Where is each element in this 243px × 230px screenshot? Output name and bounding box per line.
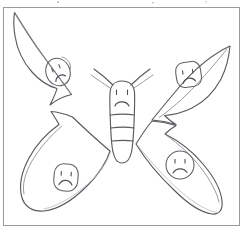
- butterfly-drawing: [0, 0, 243, 230]
- drawing-canvas: Hand-drawn butterfly sketch pencil line …: [0, 0, 243, 230]
- paper-background: [0, 0, 243, 230]
